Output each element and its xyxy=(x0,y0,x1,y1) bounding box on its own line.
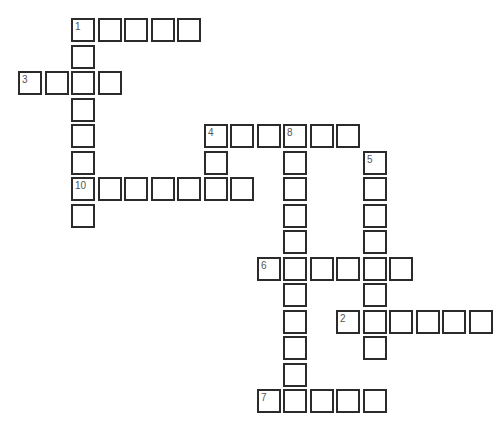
clue-number: 1 xyxy=(75,22,81,32)
crossword-cell[interactable] xyxy=(336,257,360,281)
crossword-cell[interactable] xyxy=(336,389,360,413)
crossword-cell[interactable]: 10 xyxy=(71,177,95,201)
crossword-cell[interactable] xyxy=(363,230,387,254)
crossword-cell[interactable] xyxy=(151,18,175,42)
crossword-cell[interactable] xyxy=(310,389,334,413)
crossword-cell[interactable] xyxy=(71,151,95,175)
crossword-cell[interactable] xyxy=(363,283,387,307)
crossword-cell[interactable] xyxy=(442,310,466,334)
clue-number: 7 xyxy=(261,393,267,403)
crossword-cell[interactable] xyxy=(283,257,307,281)
crossword-cell[interactable]: 8 xyxy=(283,124,307,148)
crossword-cell[interactable] xyxy=(204,151,228,175)
crossword-cell[interactable] xyxy=(177,18,201,42)
crossword-cell[interactable] xyxy=(469,310,493,334)
crossword-cell[interactable] xyxy=(151,177,175,201)
clue-number: 2 xyxy=(340,314,346,324)
crossword-cell[interactable] xyxy=(45,71,69,95)
crossword-cell[interactable]: 6 xyxy=(257,257,281,281)
crossword-cell[interactable] xyxy=(71,124,95,148)
crossword-grid: 1103485627 xyxy=(0,0,503,435)
crossword-cell[interactable] xyxy=(177,177,201,201)
crossword-cell[interactable] xyxy=(363,336,387,360)
crossword-cell[interactable] xyxy=(336,124,360,148)
crossword-cell[interactable] xyxy=(363,389,387,413)
crossword-cell[interactable] xyxy=(283,283,307,307)
crossword-cell[interactable] xyxy=(363,204,387,228)
crossword-cell[interactable] xyxy=(124,18,148,42)
crossword-cell[interactable]: 1 xyxy=(71,18,95,42)
crossword-cell[interactable] xyxy=(71,45,95,69)
crossword-cell[interactable] xyxy=(283,204,307,228)
crossword-cell[interactable] xyxy=(389,310,413,334)
crossword-cell[interactable]: 2 xyxy=(336,310,360,334)
crossword-cell[interactable]: 4 xyxy=(204,124,228,148)
clue-number: 5 xyxy=(367,155,373,165)
crossword-cell[interactable] xyxy=(257,124,281,148)
crossword-cell[interactable] xyxy=(283,310,307,334)
crossword-cell[interactable]: 5 xyxy=(363,151,387,175)
clue-number: 3 xyxy=(22,75,28,85)
crossword-cell[interactable] xyxy=(230,177,254,201)
crossword-cell[interactable] xyxy=(283,177,307,201)
crossword-cell[interactable] xyxy=(310,257,334,281)
clue-number: 10 xyxy=(75,181,86,191)
crossword-cell[interactable]: 7 xyxy=(257,389,281,413)
crossword-cell[interactable] xyxy=(283,336,307,360)
clue-number: 4 xyxy=(208,128,214,138)
crossword-cell[interactable] xyxy=(204,177,228,201)
crossword-cell[interactable] xyxy=(363,177,387,201)
crossword-cell[interactable] xyxy=(124,177,148,201)
crossword-cell[interactable] xyxy=(71,98,95,122)
crossword-cell[interactable] xyxy=(230,124,254,148)
crossword-cell[interactable] xyxy=(71,71,95,95)
crossword-cell[interactable] xyxy=(98,177,122,201)
crossword-cell[interactable] xyxy=(98,18,122,42)
crossword-cell[interactable] xyxy=(283,151,307,175)
crossword-cell[interactable] xyxy=(98,71,122,95)
crossword-cell[interactable] xyxy=(363,257,387,281)
crossword-cell[interactable] xyxy=(416,310,440,334)
crossword-cell[interactable] xyxy=(389,257,413,281)
clue-number: 8 xyxy=(287,128,293,138)
crossword-cell[interactable] xyxy=(71,204,95,228)
crossword-cell[interactable] xyxy=(363,310,387,334)
crossword-cell[interactable]: 3 xyxy=(18,71,42,95)
clue-number: 6 xyxy=(261,261,267,271)
crossword-cell[interactable] xyxy=(283,363,307,387)
crossword-cell[interactable] xyxy=(283,230,307,254)
crossword-cell[interactable] xyxy=(310,124,334,148)
crossword-cell[interactable] xyxy=(283,389,307,413)
